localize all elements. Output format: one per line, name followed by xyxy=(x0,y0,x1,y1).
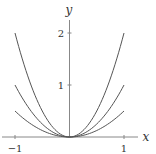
y-tick-label-1: 1 xyxy=(58,80,64,91)
x-tick-label-1: 1 xyxy=(121,143,127,154)
parabola-chart: −1 1 1 2 x y xyxy=(0,0,156,154)
y-tick-label-2: 2 xyxy=(58,28,64,39)
x-axis-label: x xyxy=(143,130,150,144)
x-tick-label-neg1: −1 xyxy=(8,143,23,154)
y-axis-label: y xyxy=(65,3,73,17)
